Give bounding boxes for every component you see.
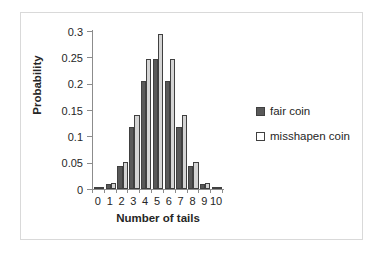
x-axis-tick-label: 6: [166, 196, 172, 207]
y-axis-tick-label: 0.05: [62, 158, 83, 169]
x-axis-tick-label: 3: [130, 196, 136, 207]
x-axis-tick: [198, 189, 199, 193]
bar-group: [93, 31, 105, 189]
x-axis-tick: [151, 189, 152, 193]
x-axis-tick-label: 5: [154, 196, 160, 207]
x-axis-tick-label: 1: [107, 196, 113, 207]
bar-group: [176, 31, 188, 189]
legend-item[interactable]: misshapen coin: [256, 131, 361, 143]
x-axis-tick: [116, 189, 117, 193]
y-axis-tick-label: 0.3: [68, 26, 83, 37]
bar-group: [117, 31, 129, 189]
legend-item-label: misshapen coin: [270, 131, 350, 143]
x-axis-tick-label: 0: [95, 196, 101, 207]
legend-item-label: fair coin: [270, 106, 310, 118]
x-axis-tick: [139, 189, 140, 193]
bar-group: [140, 31, 152, 189]
bar: [205, 183, 210, 189]
y-axis-tick-label: 0: [77, 184, 83, 195]
legend-swatch-misshapen-coin: [256, 132, 265, 141]
y-axis-tick-label: 0.25: [62, 52, 83, 63]
y-axis-tick: 0.2: [87, 84, 92, 85]
y-axis-title: Probability: [31, 47, 43, 123]
x-axis-tick: [222, 189, 223, 193]
x-axis-tick: [163, 189, 164, 193]
bar: [134, 115, 139, 189]
x-axis-tick: [104, 189, 105, 193]
bar: [99, 187, 104, 189]
x-axis-tick: [187, 189, 188, 193]
chart-frame: Probability 00.050.10.150.20.250.3 01234…: [20, 12, 363, 240]
x-axis-line: [92, 189, 224, 190]
bar: [217, 187, 222, 189]
bar: [182, 115, 187, 189]
x-axis-tick-label: 7: [178, 196, 184, 207]
bar: [146, 59, 151, 189]
bar: [123, 162, 128, 189]
bar-group: [199, 31, 211, 189]
bar: [170, 59, 175, 189]
y-axis-tick-label: 0.1: [68, 131, 83, 142]
chart-legend: fair coinmisshapen coin: [256, 106, 361, 155]
y-axis-tick: 0.05: [87, 163, 92, 164]
x-axis-tick-label: 10: [210, 196, 222, 207]
bar: [111, 183, 116, 189]
x-axis-title: Number of tails: [77, 212, 239, 224]
bar-group: [152, 31, 164, 189]
bar-group: [128, 31, 140, 189]
bar: [193, 162, 198, 189]
y-axis-tick-label: 0.2: [68, 79, 83, 90]
x-axis-tick-label: 2: [118, 196, 124, 207]
x-axis-tick: [210, 189, 211, 193]
y-axis-tick: 0.15: [87, 110, 92, 111]
legend-item[interactable]: fair coin: [256, 106, 361, 118]
legend-swatch-fair-coin: [256, 107, 265, 116]
bar-group: [211, 31, 223, 189]
y-axis-tick: 0.1: [87, 136, 92, 137]
bar-group: [105, 31, 117, 189]
x-axis-tick-label: 4: [142, 196, 148, 207]
bar-group: [164, 31, 176, 189]
x-axis-tick: [92, 189, 93, 193]
y-axis-tick: 0.25: [87, 57, 92, 58]
y-axis-tick: 0.3: [87, 31, 92, 32]
x-axis-tick: [127, 189, 128, 193]
plot-area: [93, 31, 223, 189]
bar: [158, 34, 163, 189]
x-axis-tick-label: 9: [201, 196, 207, 207]
x-axis-tick: [175, 189, 176, 193]
x-axis-tick-label: 8: [189, 196, 195, 207]
bar-group: [188, 31, 200, 189]
x-axis-tick-labels: 012345678910: [92, 196, 224, 210]
y-axis-tick-label: 0.15: [62, 105, 83, 116]
